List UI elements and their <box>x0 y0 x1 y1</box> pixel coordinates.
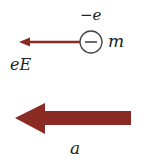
force-label: eE <box>10 55 31 74</box>
acceleration-label: a <box>70 138 80 158</box>
diagram-canvas: −e m eE a <box>0 0 149 163</box>
mass-label: m <box>108 31 124 51</box>
force-arrow <box>19 38 80 47</box>
particle <box>80 31 102 53</box>
acceleration-arrow <box>15 103 131 134</box>
charge-label: −e <box>80 6 102 24</box>
